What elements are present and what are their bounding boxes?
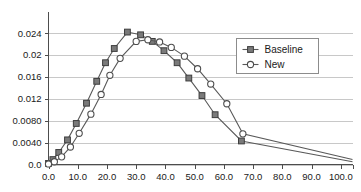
- chart-container: 0.00.00400.00800.0120.0160.020.024 0.010…: [0, 0, 361, 192]
- data-point-baseline: [103, 60, 109, 66]
- y-axis-tick-labels: 0.00.00400.00800.0120.0160.020.024: [12, 28, 41, 170]
- data-point-new: [194, 66, 200, 72]
- data-point-baseline: [65, 137, 71, 143]
- y-tick-label-3: 0.012: [18, 93, 42, 104]
- data-point-new: [133, 38, 139, 44]
- chart-legend: BaselineNew: [237, 39, 319, 74]
- data-point-new: [145, 37, 151, 43]
- legend-label-new: New: [265, 59, 286, 70]
- x-axis-tick-labels: 0.010.020.030.040.050.060.070.080.090.01…: [42, 171, 353, 182]
- data-point-new: [117, 55, 123, 61]
- x-tick-label-9: 90.0: [302, 171, 321, 182]
- data-point-new: [67, 144, 73, 150]
- data-point-new: [208, 81, 214, 87]
- x-tick-label-1: 10.0: [68, 171, 87, 182]
- data-point-new: [168, 44, 174, 50]
- data-point-new: [156, 39, 162, 45]
- legend-label-baseline: Baseline: [265, 44, 304, 55]
- axes: [45, 12, 353, 166]
- y-tick-label-5: 0.02: [23, 49, 42, 60]
- y-tick-label-2: 0.0080: [12, 115, 41, 126]
- data-point-new: [59, 154, 65, 160]
- data-point-baseline: [161, 48, 167, 54]
- x-tick-label-10: 100.0: [329, 171, 353, 182]
- y-tick-label-1: 0.0040: [12, 137, 41, 148]
- data-point-new: [107, 72, 113, 78]
- x-tick-label-4: 40.0: [156, 171, 175, 182]
- data-point-baseline: [199, 93, 205, 99]
- x-tick-label-7: 70.0: [244, 171, 263, 182]
- x-tick-label-8: 80.0: [273, 171, 292, 182]
- data-point-baseline: [94, 78, 100, 84]
- y-tick-label-6: 0.024: [18, 28, 42, 39]
- data-point-new: [51, 159, 57, 165]
- legend-marker-circle-icon: [247, 61, 253, 67]
- x-tick-label-3: 30.0: [127, 171, 146, 182]
- legend-marker-square-icon: [248, 47, 254, 53]
- x-tick-label-5: 50.0: [185, 171, 204, 182]
- data-point-baseline: [111, 46, 117, 52]
- data-point-new: [240, 131, 246, 137]
- data-point-new: [224, 101, 230, 107]
- x-tick-label-2: 20.0: [98, 171, 117, 182]
- data-point-baseline: [186, 75, 192, 81]
- x-tick-label-0: 0.0: [42, 171, 55, 182]
- y-tick-label-0: 0.0: [28, 159, 41, 170]
- data-point-baseline: [84, 100, 90, 106]
- data-point-baseline: [138, 32, 144, 38]
- y-tick-label-4: 0.016: [18, 71, 42, 82]
- data-point-baseline: [174, 60, 180, 66]
- data-point-baseline: [212, 112, 218, 118]
- data-point-baseline: [239, 138, 245, 144]
- line-chart: 0.00.00400.00800.0120.0160.020.024 0.010…: [0, 0, 361, 192]
- data-point-baseline: [73, 121, 79, 127]
- data-point-new: [45, 161, 51, 167]
- data-point-new: [181, 53, 187, 59]
- x-tick-label-6: 60.0: [215, 171, 234, 182]
- data-point-new: [98, 91, 104, 97]
- data-point-new: [76, 130, 82, 136]
- data-point-new: [88, 111, 94, 117]
- data-point-baseline: [125, 29, 131, 35]
